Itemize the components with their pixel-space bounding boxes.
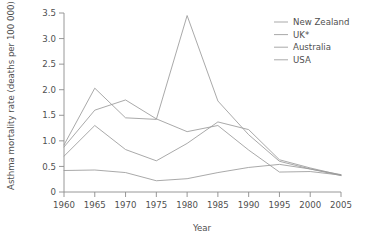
x-tick-label: 1985 bbox=[207, 200, 229, 210]
chart-svg: 00.51.01.52.02.53.03.5 19601965197019751… bbox=[0, 0, 373, 241]
y-tick-group: 00.51.01.52.02.53.03.5 bbox=[42, 8, 64, 197]
x-tick-label: 1990 bbox=[238, 200, 260, 210]
legend-label-0: New Zealand bbox=[293, 17, 349, 27]
asthma-mortality-chart: 00.51.01.52.02.53.03.5 19601965197019751… bbox=[0, 0, 373, 241]
y-tick-label: 3.5 bbox=[42, 8, 56, 18]
legend-label-1: UK* bbox=[293, 30, 310, 40]
x-tick-label: 1970 bbox=[115, 200, 137, 210]
x-axis: 1960196519701975198019851990199520002005 bbox=[53, 192, 352, 210]
y-axis: 00.51.01.52.02.53.03.5 bbox=[42, 8, 64, 197]
y-tick-label: 1.0 bbox=[42, 136, 56, 146]
legend-label-3: USA bbox=[293, 55, 311, 65]
x-tick-label: 2000 bbox=[299, 200, 321, 210]
x-tick-label: 1975 bbox=[145, 200, 167, 210]
series-line-usa bbox=[64, 164, 341, 180]
series-group bbox=[64, 16, 341, 181]
legend: New ZealandUK*AustraliaUSA bbox=[274, 17, 349, 65]
y-tick-label: 2.0 bbox=[42, 85, 56, 95]
x-tick-group: 1960196519701975198019851990199520002005 bbox=[53, 192, 352, 210]
y-tick-label: 0.5 bbox=[42, 162, 56, 172]
x-tick-label: 2005 bbox=[330, 200, 352, 210]
x-tick-label: 1995 bbox=[269, 200, 291, 210]
y-tick-label: 3.0 bbox=[42, 34, 56, 44]
x-tick-label: 1980 bbox=[176, 200, 198, 210]
y-tick-label: 1.5 bbox=[42, 110, 56, 120]
y-tick-label: 0 bbox=[51, 187, 56, 197]
x-tick-label: 1960 bbox=[53, 200, 75, 210]
legend-label-2: Australia bbox=[293, 42, 331, 52]
y-tick-label: 2.5 bbox=[42, 59, 56, 69]
series-line-uk bbox=[64, 100, 341, 175]
x-axis-title: Year bbox=[192, 223, 212, 233]
y-axis-title: Asthma mortality rate (deaths per 100 00… bbox=[6, 1, 16, 190]
x-tick-label: 1965 bbox=[84, 200, 106, 210]
